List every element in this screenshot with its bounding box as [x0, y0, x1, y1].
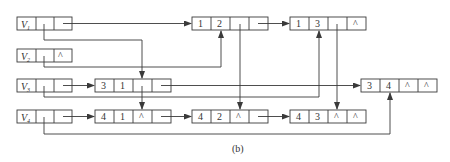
a34-head: 4	[386, 80, 391, 91]
a34-hlink: ^	[405, 80, 410, 91]
vertex-label-v2: V2	[21, 51, 30, 63]
arc-node-1-2	[192, 17, 268, 30]
a42-head: 2	[217, 111, 222, 122]
vertex-label-v4: V4	[21, 112, 30, 124]
arc-node-4-2	[192, 110, 268, 123]
vertex-label-v1: V1	[21, 19, 30, 31]
a43-tail: 4	[296, 111, 301, 122]
arc-node-4-1	[95, 110, 171, 123]
a34-tail: 3	[367, 80, 372, 91]
arc-node-3-1	[95, 79, 171, 92]
a43-tlink: ^	[353, 111, 358, 122]
a42-hlink: ^	[236, 111, 241, 122]
a31-tail: 3	[101, 80, 106, 91]
figure-caption: (b)	[232, 143, 244, 155]
null-pointer-v2-in: ^	[58, 50, 63, 61]
a31-head: 1	[120, 80, 125, 91]
a43-head: 3	[315, 111, 320, 122]
a12-head: 2	[217, 18, 222, 29]
a43-hlink: ^	[334, 111, 339, 122]
a41-hlink: ^	[139, 111, 144, 122]
a41-tail: 4	[101, 111, 106, 122]
orthogonal-list-diagram: V1 V2 ^ V3 V4 1 2 1 3 ^ 3 1 3 4 ^ ^ 4 1 …	[0, 0, 450, 162]
a12-tail: 1	[198, 18, 203, 29]
a13-tlink: ^	[353, 18, 358, 29]
diagram-svg: V1 V2 ^ V3 V4 1 2 1 3 ^ 3 1 3 4 ^ ^ 4 1 …	[0, 0, 450, 162]
a41-head: 1	[120, 111, 125, 122]
a13-head: 3	[315, 18, 320, 29]
a34-tlink: ^	[424, 80, 429, 91]
link-v3-in	[44, 31, 319, 97]
vertex-label-v3: V3	[21, 81, 30, 93]
a42-tail: 4	[198, 111, 203, 122]
a13-tail: 1	[296, 18, 301, 29]
